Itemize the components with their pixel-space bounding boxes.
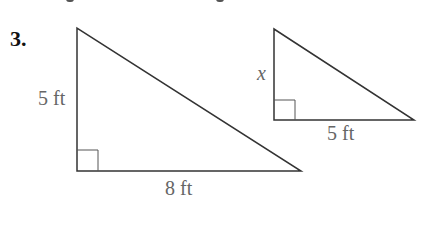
right-angle-marker	[77, 150, 98, 171]
small-vertical-leg-label: x	[257, 62, 266, 85]
large-triangle	[77, 28, 301, 171]
small-horizontal-leg-label: 5 ft	[327, 122, 354, 145]
right-angle-marker	[274, 100, 295, 120]
small-triangle	[274, 29, 414, 120]
large-horizontal-leg-label: 8 ft	[165, 177, 192, 200]
large-vertical-leg-label: 5 ft	[38, 87, 65, 110]
